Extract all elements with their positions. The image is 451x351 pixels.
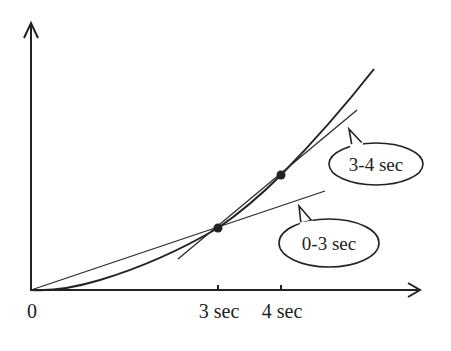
bubble-label-3-4: 3-4 sec xyxy=(349,154,403,175)
point-4-sec xyxy=(277,171,286,180)
x-tick-label-4: 4 sec xyxy=(262,300,303,322)
diagram: 3-4 sec 0-3 sec 0 3 sec 4 sec xyxy=(0,0,451,351)
y-axis xyxy=(24,23,38,290)
bubble-label-0-3: 0-3 sec xyxy=(302,233,356,254)
bubble-0-3-sec: 0-3 sec xyxy=(279,206,379,267)
bubble-3-4-sec: 3-4 sec xyxy=(329,129,423,185)
x-axis xyxy=(30,283,420,297)
origin-label: 0 xyxy=(27,300,37,322)
point-3-sec xyxy=(214,224,223,233)
x-tick-label-3: 3 sec xyxy=(199,300,240,322)
